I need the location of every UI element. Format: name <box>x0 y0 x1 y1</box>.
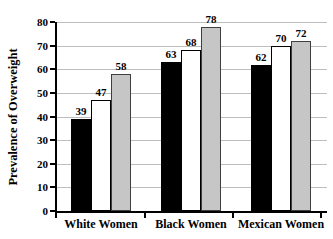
y-tick-mark <box>50 21 55 23</box>
y-tick-label: 40 <box>20 110 48 124</box>
bar-value-label: 72 <box>296 27 307 39</box>
bar-value-label: 62 <box>256 51 267 63</box>
bar-black-bar <box>251 65 271 211</box>
y-tick-label: 10 <box>20 180 48 194</box>
y-tick-label: 80 <box>20 15 48 29</box>
bar-gray-bar <box>111 74 131 211</box>
bar-value-label: 63 <box>166 48 177 60</box>
x-tick-mark <box>144 213 146 218</box>
bar-white-bar <box>181 50 201 211</box>
y-tick-label: 20 <box>20 157 48 171</box>
bar-value-label: 58 <box>116 60 127 72</box>
bar-black-bar <box>71 119 91 211</box>
y-tick-mark <box>50 139 55 141</box>
y-tick-mark <box>50 116 55 118</box>
bar-value-label: 70 <box>276 32 287 44</box>
bar-chart: Prevalence of Overweight 394758636878627… <box>0 0 333 239</box>
gridline <box>57 22 327 23</box>
bar-value-label: 78 <box>206 13 217 25</box>
bar-black-bar <box>161 62 181 211</box>
plot-area: 394758636878627072 <box>55 22 327 213</box>
y-tick-label: 50 <box>20 86 48 100</box>
category-label: Mexican Women <box>238 217 324 232</box>
y-tick-label: 60 <box>20 62 48 76</box>
y-tick-mark <box>50 92 55 94</box>
y-tick-label: 30 <box>20 133 48 147</box>
y-tick-mark <box>50 45 55 47</box>
y-tick-label: 0 <box>20 204 48 218</box>
bar-gray-bar <box>291 41 311 211</box>
y-axis-title: Prevalence of Overweight <box>6 48 21 185</box>
bar-white-bar <box>91 100 111 211</box>
x-tick-mark <box>55 213 57 218</box>
bar-value-label: 39 <box>76 105 87 117</box>
bar-gray-bar <box>201 27 221 211</box>
bar-value-label: 47 <box>96 86 107 98</box>
y-tick-label: 70 <box>20 39 48 53</box>
category-label: White Women <box>64 217 137 232</box>
y-tick-mark <box>50 163 55 165</box>
x-tick-mark <box>232 213 234 218</box>
category-label: Black Women <box>155 217 226 232</box>
bar-white-bar <box>271 46 291 211</box>
bar-value-label: 68 <box>186 36 197 48</box>
y-tick-mark <box>50 210 55 212</box>
y-tick-mark <box>50 186 55 188</box>
y-tick-mark <box>50 68 55 70</box>
